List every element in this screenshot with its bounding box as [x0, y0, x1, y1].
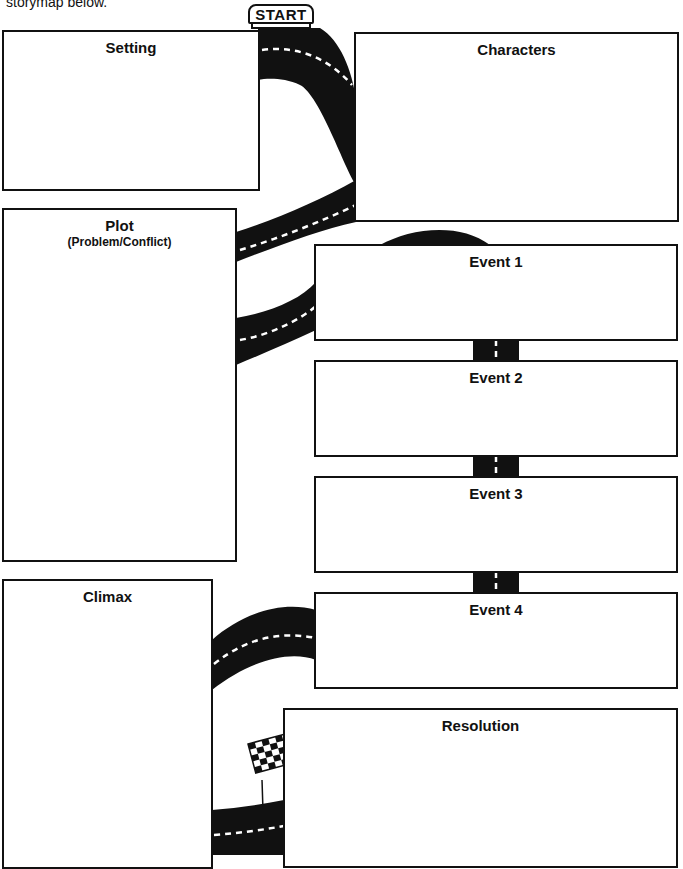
- event4-title: Event 4: [316, 601, 676, 618]
- climax-box[interactable]: Climax: [2, 579, 213, 869]
- event2-title: Event 2: [316, 369, 676, 386]
- event1-box[interactable]: Event 1: [314, 244, 678, 341]
- resolution-title: Resolution: [285, 717, 676, 734]
- plot-box[interactable]: Plot (Problem/Conflict): [2, 208, 237, 562]
- start-label: START: [248, 4, 314, 24]
- setting-box[interactable]: Setting: [2, 30, 260, 191]
- event3-box[interactable]: Event 3: [314, 476, 678, 573]
- event4-box[interactable]: Event 4: [314, 592, 678, 689]
- event2-box[interactable]: Event 2: [314, 360, 678, 457]
- plot-title: Plot: [4, 217, 235, 234]
- start-sign-icon: START: [248, 4, 314, 28]
- setting-title: Setting: [4, 39, 258, 56]
- resolution-box[interactable]: Resolution: [283, 708, 678, 868]
- event1-title: Event 1: [316, 253, 676, 270]
- start-sign-base: [251, 24, 311, 29]
- plot-subtitle: (Problem/Conflict): [4, 235, 235, 249]
- characters-title: Characters: [356, 41, 677, 58]
- characters-box[interactable]: Characters: [354, 32, 679, 222]
- event3-title: Event 3: [316, 485, 676, 502]
- climax-title: Climax: [4, 588, 211, 605]
